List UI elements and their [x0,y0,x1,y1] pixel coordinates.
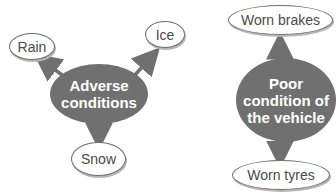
node-adverse-conditions: Adverse conditions [50,64,148,124]
node-worn-brakes: Worn brakes [228,5,333,35]
node-ice: Ice [145,21,185,48]
node-ice-label: Ice [156,27,175,43]
diagram-canvas: Rain Ice Adverse conditions Snow Worn br… [0,0,336,193]
node-worn-tyres: Worn tyres [232,160,330,190]
hub-adverse-line2: conditions [61,94,137,111]
hub-adverse-line1: Adverse [69,77,128,94]
hub-vehicle-line1: Poor [269,75,303,92]
node-worn-tyres-label: Worn tyres [247,167,314,183]
node-snow-label: Snow [81,151,116,167]
node-poor-vehicle-condition: Poor condition of the vehicle [236,58,336,142]
node-worn-brakes-label: Worn brakes [241,12,320,28]
node-rain-label: Rain [18,39,47,55]
node-rain: Rain [9,33,55,60]
hub-vehicle-line3: the vehicle [247,109,325,126]
node-snow: Snow [71,142,126,176]
hub-vehicle-line2: condition of [243,92,329,109]
arrow-to-ice [134,55,153,76]
